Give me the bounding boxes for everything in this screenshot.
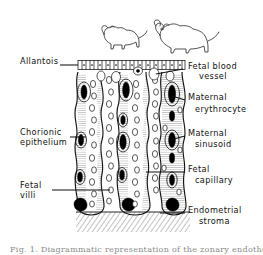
label-maternal-erythrocyte-line2: erythrocyte — [195, 104, 246, 114]
figure-caption-text: Fig. 1. Diagrammatic representation of t… — [10, 245, 263, 254]
placenta-figure: Allantois Chorionic epithelium Fetal vil… — [0, 0, 263, 255]
label-chorionic-epithelium: Chorionic epithelium — [20, 127, 67, 147]
label-maternal-sinusoid-line1: Maternal — [188, 128, 227, 138]
label-fetal-capillary-line1: Fetal — [188, 164, 210, 174]
label-maternal-sinusoid-line2: sinusoid — [195, 139, 231, 149]
label-maternal-erythrocyte-line1: Maternal — [188, 92, 227, 102]
allantois-cell-band — [78, 61, 185, 70]
label-endometrial-stroma-line2: stroma — [199, 216, 230, 226]
label-fetal-villi-line2: villi — [20, 190, 36, 200]
label-fetal-blood-vessel-line1: Fetal blood — [188, 61, 237, 71]
label-fetal-villi-line1: Fetal — [20, 180, 42, 190]
label-maternal-sinusoid: Maternal sinusoid — [188, 128, 231, 149]
label-allantois: Allantois — [20, 56, 58, 66]
label-chorionic-epithelium-line2: epithelium — [20, 137, 67, 147]
label-fetal-capillary-line2: capillary — [195, 175, 233, 185]
label-fetal-blood-vessel-line2: vessel — [199, 71, 227, 81]
label-chorionic-epithelium-line1: Chorionic — [20, 127, 62, 137]
label-allantois-line1: Allantois — [20, 56, 58, 66]
figure-caption: Fig. 1. Diagrammatic representation of t… — [10, 245, 263, 254]
label-endometrial-stroma-line1: Endometrial — [188, 205, 242, 215]
fetal-villus-right — [159, 72, 186, 215]
